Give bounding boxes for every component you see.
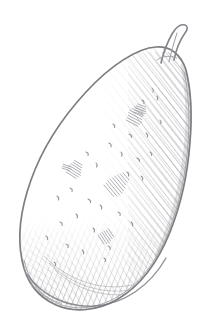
pear-sketch-illustration (0, 0, 210, 330)
sketch-canvas: A hand-drawn graphite pencil sketch of a… (0, 0, 210, 330)
